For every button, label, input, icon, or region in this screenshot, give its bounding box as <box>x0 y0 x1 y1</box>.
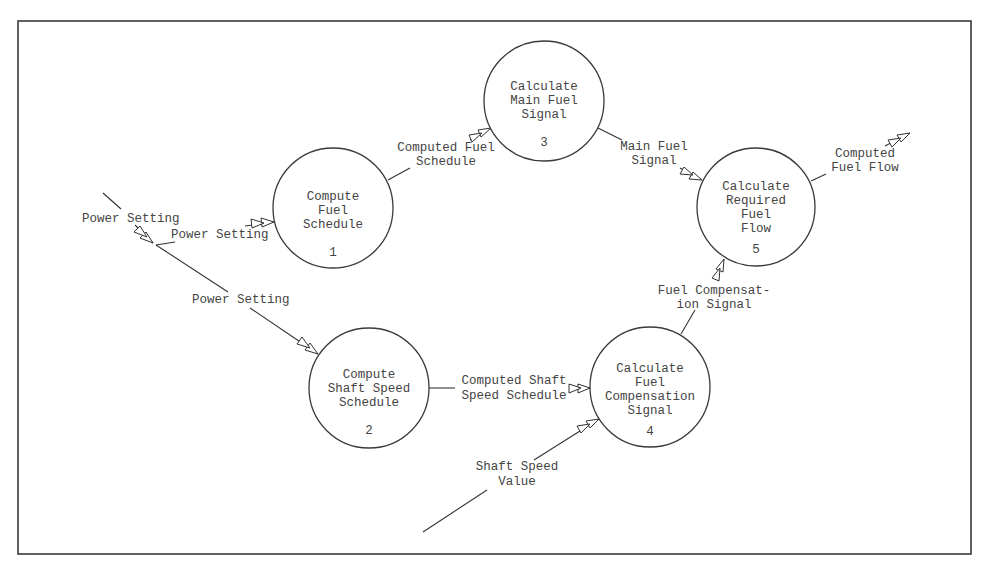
process-4-line-4: Signal <box>627 404 672 418</box>
flow-label-power-setting-to-1: Power Setting <box>171 228 269 242</box>
flow-label-power-setting-to-2: Power Setting <box>192 293 290 307</box>
process-2-line-3: Schedule <box>339 396 399 410</box>
process-2-number: 2 <box>365 424 373 438</box>
process-3-line-3: Signal <box>521 108 566 122</box>
process-2-line-1: Compute <box>343 368 396 382</box>
process-4-line-1: Calculate <box>616 362 684 376</box>
process-2[interactable]: Compute Shaft Speed Schedule 2 <box>309 328 429 448</box>
flow-label-computed-fuel-flow-1: Computed <box>835 147 895 161</box>
flow-label-power-setting-input: Power Setting <box>82 212 180 226</box>
arrow-head-icon <box>297 337 310 348</box>
process-3-number: 3 <box>540 136 548 150</box>
process-5-line-1: Calculate <box>722 180 790 194</box>
arrow-head-icon <box>888 138 901 147</box>
process-3[interactable]: Calculate Main Fuel Signal 3 <box>484 41 604 161</box>
process-1-line-1: Compute <box>307 190 360 204</box>
process-3-line-2: Main Fuel <box>510 94 578 108</box>
process-4[interactable]: Calculate Fuel Compensation Signal 4 <box>590 327 710 447</box>
process-4-number: 4 <box>646 425 654 439</box>
flow-label-computed-fuel-schedule-2: Schedule <box>416 155 476 169</box>
flow-label-computed-shaft-speed-schedule-1: Computed Shaft <box>461 374 566 388</box>
process-5-number: 5 <box>752 243 760 257</box>
flow-label-shaft-speed-value-2: Value <box>498 475 536 489</box>
flow-label-main-fuel-signal-2: Signal <box>631 154 676 168</box>
arrow-head-icon <box>680 167 693 175</box>
process-4-line-3: Compensation <box>605 390 695 404</box>
process-5[interactable]: Calculate Required Fuel Flow 5 <box>697 148 815 266</box>
flow-label-computed-fuel-flow-2: Fuel Flow <box>831 161 899 175</box>
process-1[interactable]: Compute Fuel Schedule 1 <box>273 148 393 268</box>
flow-label-fuel-compensation-signal-1: Fuel Compensat- <box>658 284 771 298</box>
flow-label-fuel-compensation-signal-2: ion Signal <box>676 298 751 312</box>
data-flow-diagram: Compute Fuel Schedule 1 Compute Shaft Sp… <box>0 0 987 568</box>
flow-label-computed-shaft-speed-schedule-2: Speed Schedule <box>461 389 566 403</box>
process-4-line-2: Fuel <box>635 376 665 390</box>
process-5-line-2: Required <box>726 194 786 208</box>
flow-label-computed-fuel-schedule-1: Computed Fuel <box>397 141 495 155</box>
process-1-number: 1 <box>329 246 337 260</box>
flow-label-main-fuel-signal-1: Main Fuel <box>620 140 688 154</box>
flow-label-shaft-speed-value-1: Shaft Speed <box>476 460 559 474</box>
arrow-head-icon <box>134 226 147 237</box>
arrow-head-icon <box>712 268 720 281</box>
process-3-line-1: Calculate <box>510 80 578 94</box>
process-1-line-2: Fuel <box>318 204 348 218</box>
process-2-line-2: Shaft Speed <box>328 382 411 396</box>
process-5-line-3: Fuel <box>741 208 771 222</box>
process-5-line-4: Flow <box>741 222 772 236</box>
arrow-head-icon <box>478 128 491 137</box>
process-1-line-3: Schedule <box>303 218 363 232</box>
